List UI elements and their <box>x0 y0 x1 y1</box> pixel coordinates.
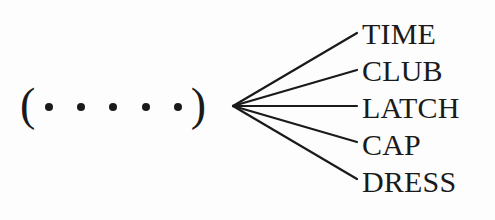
fan-out-diagram: ( ) TIME CLUB LATCH CAP DRESS <box>0 0 495 220</box>
label-club: CLUB <box>362 56 443 86</box>
source-node: ( ) <box>20 84 206 130</box>
sequence-dot <box>174 103 182 111</box>
label-column: TIME CLUB LATCH CAP DRESS <box>362 16 492 206</box>
sequence-dot <box>77 103 85 111</box>
sequence-dot <box>142 103 150 111</box>
label-time: TIME <box>362 19 436 49</box>
open-paren: ( <box>20 82 35 128</box>
close-paren: ) <box>191 82 206 128</box>
label-cap: CAP <box>362 130 421 160</box>
connector-line-cap <box>233 106 357 142</box>
connector-line-dress <box>233 106 357 179</box>
connector-line-time <box>233 33 357 106</box>
label-dress: DRESS <box>362 167 456 197</box>
sequence-dot <box>45 103 53 111</box>
dot-sequence <box>35 103 190 111</box>
label-latch: LATCH <box>362 93 460 123</box>
sequence-dot <box>109 103 117 111</box>
connector-line-club <box>233 70 357 106</box>
